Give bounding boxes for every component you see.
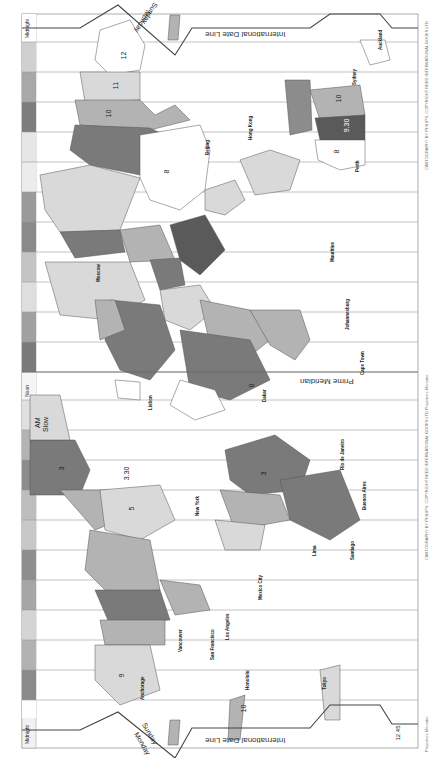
region-australia-c: [315, 115, 365, 140]
region-russia-11: [80, 72, 140, 102]
region-australia-e: [310, 85, 365, 120]
region-date-zone-pacific: [168, 720, 180, 745]
hour-strip: [22, 14, 36, 748]
region-uk: [115, 380, 140, 400]
region-pacific-top: [168, 15, 180, 40]
region-pacific: [100, 620, 165, 645]
region-png: [285, 80, 312, 135]
time-zone-map: [0, 0, 436, 758]
